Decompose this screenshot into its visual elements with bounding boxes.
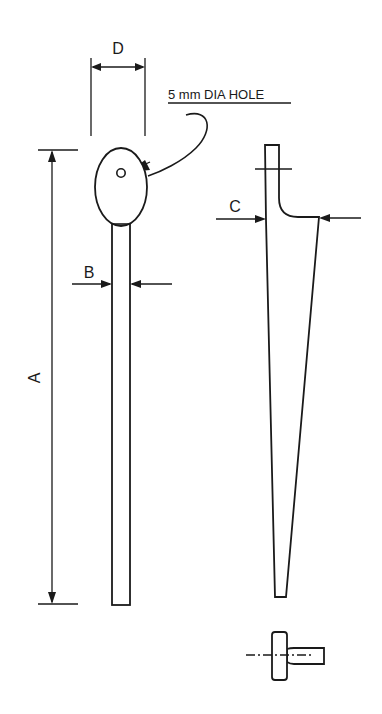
dimension-label-a: A bbox=[26, 372, 43, 383]
arrowhead-icon bbox=[48, 592, 56, 604]
disc bbox=[272, 632, 287, 680]
arrowhead-icon bbox=[101, 280, 112, 288]
tapered-profile bbox=[265, 145, 319, 597]
arrowhead-icon bbox=[319, 214, 330, 222]
arrowhead-icon bbox=[130, 280, 141, 288]
leader-line bbox=[148, 114, 207, 176]
hole-note-text: 5 mm DIA HOLE bbox=[168, 87, 264, 102]
dimension-a: A bbox=[26, 150, 78, 604]
dimension-d: D bbox=[91, 40, 145, 136]
end-view bbox=[246, 632, 324, 680]
technical-drawing: D 5 mm DIA HOLE B bbox=[0, 0, 382, 714]
arrowhead-icon bbox=[255, 215, 266, 223]
arrowhead-icon bbox=[48, 150, 56, 162]
dimension-label-c: C bbox=[229, 198, 241, 215]
side-view: C bbox=[216, 145, 361, 597]
arrowhead-icon bbox=[135, 63, 145, 71]
oval-head bbox=[95, 148, 147, 226]
shaft bbox=[112, 224, 130, 605]
dimension-label-d: D bbox=[112, 40, 124, 57]
arrowhead-icon bbox=[91, 63, 101, 71]
dimension-label-b: B bbox=[84, 264, 95, 281]
stem bbox=[287, 648, 324, 664]
front-view: D 5 mm DIA HOLE B bbox=[26, 40, 291, 605]
